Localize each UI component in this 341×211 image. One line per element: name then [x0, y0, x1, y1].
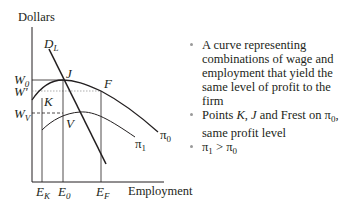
demand-curve-label: DL	[44, 37, 58, 53]
wv-label: WV	[14, 107, 30, 123]
point-v-label: V	[66, 117, 74, 130]
ef-label: EF	[96, 185, 109, 201]
x-axis-label: Employment	[128, 185, 193, 198]
ek-label: EK	[36, 185, 50, 201]
y-axis-label: Dollars	[18, 11, 55, 24]
isoprofit-curve-pi1	[42, 112, 135, 137]
w-prime-label: W'	[14, 85, 28, 98]
explanation-list: A curve representing combinations of wag…	[190, 38, 341, 158]
point-k-label: K	[44, 95, 53, 108]
bullet-definition: A curve representing combinations of wag…	[190, 38, 341, 108]
point-f-label: F	[104, 77, 112, 90]
bullet-dot-icon	[190, 145, 193, 148]
pi1-label: π1	[135, 137, 146, 153]
point-j-label: J	[66, 67, 72, 80]
bullet-dot-icon	[190, 113, 193, 116]
labor-demand-curve	[49, 49, 106, 164]
bullet-points-same-profit: Points K, J and Frest on π0, same profit…	[190, 108, 341, 140]
bullet-dot-icon	[190, 43, 193, 46]
pi0-label: π0	[160, 128, 171, 144]
e0-label: E0	[58, 185, 70, 201]
bullet-profit-comparison: π1 > π0	[190, 140, 341, 158]
